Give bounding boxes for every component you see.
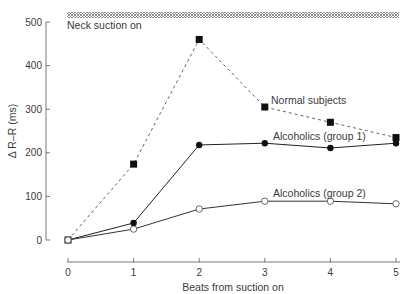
open-circle-marker [196,206,202,212]
open-circle-marker [130,226,136,232]
open-circle-marker [65,237,71,243]
x-tick-label: 5 [393,267,399,278]
square-marker [130,161,137,168]
chart: Neck suction on 0100200300400500 Δ R–R (… [0,0,409,294]
x-tick-label: 0 [65,267,71,278]
filled-circle-marker [327,145,333,151]
series-label: Normal subjects [271,94,346,106]
square-marker [196,36,203,43]
y-tick-label: 500 [25,17,42,28]
x-tick-label: 1 [131,267,137,278]
x-axis: 012345 Beats from suction on [65,258,400,293]
x-tick-label: 2 [196,267,202,278]
filled-circle-marker [196,142,202,148]
square-marker [393,134,400,141]
series-alcoholics-group-2 [65,198,399,243]
open-circle-marker [393,201,399,207]
square-marker [327,119,334,126]
y-axis: 0100200300400500 Δ R–R (ms) [6,17,50,246]
x-tick-label: 4 [328,267,334,278]
y-tick-label: 300 [25,104,42,115]
x-axis-label: Beats from suction on [182,281,284,293]
y-tick-label: 400 [25,60,42,71]
band-label: Neck suction on [67,19,142,31]
neck-suction-band [67,12,399,18]
y-tick-label: 100 [25,191,42,202]
series-label: Alcoholics (group 1) [273,130,366,142]
series-label: Alcoholics (group 2) [273,187,366,199]
square-marker [261,104,268,111]
y-axis-label: Δ R–R (ms) [6,104,18,158]
filled-circle-marker [262,140,268,146]
filled-circle-marker [393,140,399,146]
open-circle-marker [262,198,268,204]
x-tick-label: 3 [262,267,268,278]
y-tick-label: 0 [36,235,42,246]
filled-circle-marker [130,220,136,226]
y-tick-label: 200 [25,147,42,158]
